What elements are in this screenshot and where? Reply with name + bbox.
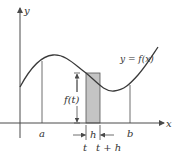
y-axis-label: y xyxy=(23,5,30,16)
shaded-rectangle xyxy=(86,73,100,123)
t-plus-h-label: t + h xyxy=(96,142,121,153)
figure: y x y = f(x) a b f(t) h t t + h xyxy=(0,0,172,155)
curve-label: y = f(x) xyxy=(119,54,154,64)
x-axis-label: x xyxy=(166,118,172,129)
t-label: t xyxy=(83,142,88,153)
width-label: h xyxy=(90,129,96,140)
b-label: b xyxy=(127,128,133,139)
height-label: f(t) xyxy=(63,94,80,105)
area-diagram: y x y = f(x) a b f(t) h t t + h xyxy=(0,0,172,155)
a-label: a xyxy=(39,128,45,139)
